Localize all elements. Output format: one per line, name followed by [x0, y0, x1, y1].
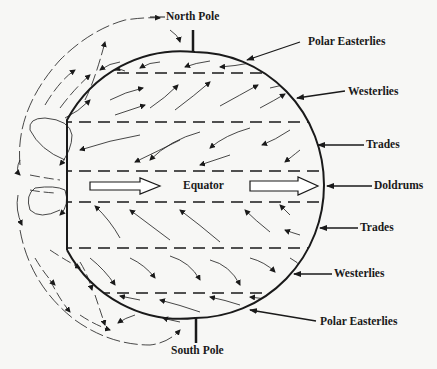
- north-pole-label: North Pole: [166, 11, 219, 23]
- equator-label: Equator: [183, 180, 224, 192]
- equator-arrow-right-icon: [250, 177, 318, 195]
- vertical-circulation-arrows: [17, 18, 180, 345]
- trades-north-label: Trades: [366, 139, 400, 151]
- south-pole-label: South Pole: [171, 345, 224, 357]
- polar-easterlies-south-label: Polar Easterlies: [320, 316, 397, 328]
- westerlies-south-label: Westerlies: [334, 268, 384, 280]
- doldrums-label: Doldrums: [374, 180, 423, 192]
- equator-arrow-left-icon: [90, 178, 160, 194]
- wind-belts-diagram: North Pole South Pole Equator Polar East…: [0, 0, 437, 369]
- westerlies-north-label: Westerlies: [348, 86, 398, 98]
- trades-south-label: Trades: [360, 222, 394, 234]
- polar-easterlies-north-label: Polar Easterlies: [308, 36, 385, 48]
